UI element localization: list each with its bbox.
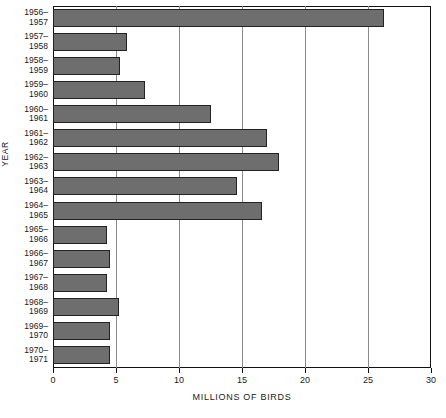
y-tick-label-line: 1959 [0,66,48,76]
y-tick-label-line: 1967 [0,259,48,269]
bar-row [53,78,431,102]
bar-row [53,127,431,151]
bar-row [53,223,431,247]
x-tick-label-20: 20 [290,375,320,385]
bar [53,9,384,27]
y-tick-label-line: 1964 [0,186,48,196]
bar-chart: YEAR 1956–19571957–19581958–19591959–196… [0,0,446,418]
y-tick-label-line: 1961 [0,114,48,124]
bar [53,274,107,292]
y-tick-label: 1969–1970 [0,322,48,341]
x-tick-label-15: 15 [227,375,257,385]
y-tick-label-line: 1963 [0,162,48,172]
bar-row [53,151,431,175]
y-tick-label-line: 1960 [0,90,48,100]
y-tick-label: 1957–1958 [0,32,48,51]
x-tick-mark-15 [242,368,243,373]
y-tick-label: 1960–1961 [0,105,48,124]
y-tick-label-line: 1965 [0,211,48,221]
x-tick-mark-10 [179,368,180,373]
x-tick-label-30: 30 [416,375,446,385]
bar [53,177,237,195]
bar-rows [53,6,431,368]
y-tick-label-line: 1957 [0,18,48,28]
y-tick-label-line: 1969 [0,307,48,317]
y-tick-label-line: 1958 [0,42,48,52]
y-tick-label: 1966–1967 [0,249,48,268]
x-tick-mark-0 [53,368,54,373]
y-tick-label: 1962–1963 [0,153,48,172]
bar [53,153,279,171]
bar-row [53,199,431,223]
bar [53,81,145,99]
bar [53,298,119,316]
bar [53,346,110,364]
bar-row [53,175,431,199]
y-tick-label: 1968–1969 [0,298,48,317]
bar [53,322,110,340]
x-tick-label-5: 5 [101,375,131,385]
bar [53,57,120,75]
x-tick-mark-30 [431,368,432,373]
bar-row [53,247,431,271]
bar-row [53,54,431,78]
bar [53,226,107,244]
bar-row [53,103,431,127]
x-tick-label-0: 0 [38,375,68,385]
y-tick-label: 1965–1966 [0,225,48,244]
x-axis-title: MILLIONS OF BIRDS [53,392,431,402]
y-axis-tick-labels: 1956–19571957–19581958–19591959–19601960… [0,6,51,368]
bar-row [53,344,431,368]
y-tick-label: 1964–1965 [0,201,48,220]
bar-row [53,320,431,344]
y-tick-label-line: 1968 [0,283,48,293]
y-tick-label: 1970–1971 [0,346,48,365]
y-tick-label: 1958–1959 [0,56,48,75]
bar [53,105,211,123]
x-tick-label-10: 10 [164,375,194,385]
y-tick-label-line: 1966 [0,235,48,245]
x-tick-label-25: 25 [353,375,383,385]
x-tick-mark-25 [368,368,369,373]
bar [53,129,267,147]
x-tick-mark-20 [305,368,306,373]
bar [53,33,127,51]
bar-row [53,271,431,295]
bar [53,250,110,268]
y-tick-label: 1963–1964 [0,177,48,196]
y-tick-label-line: 1970 [0,331,48,341]
y-tick-label: 1959–1960 [0,80,48,99]
bar-row [53,30,431,54]
x-tick-mark-5 [116,368,117,373]
y-tick-label: 1961–1962 [0,129,48,148]
y-tick-label: 1967–1968 [0,273,48,292]
y-tick-label: 1956–1957 [0,8,48,27]
bar-row [53,296,431,320]
y-tick-label-line: 1971 [0,355,48,365]
bar [53,202,262,220]
y-tick-label-line: 1962 [0,138,48,148]
bar-row [53,6,431,30]
plot-area [53,6,431,368]
